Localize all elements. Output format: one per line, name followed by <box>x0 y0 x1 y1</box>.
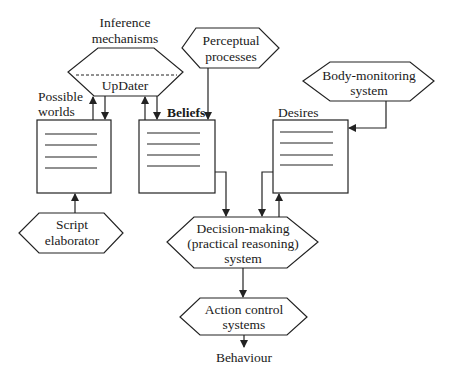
perceptual-processes-node: Perceptual processes <box>182 28 279 68</box>
beliefs-store: Beliefs <box>139 105 215 193</box>
script-elaborator-label-line2: elaborator <box>45 233 100 248</box>
action-control-label-line1: Action control <box>205 302 284 317</box>
action-control-label-line2: systems <box>223 317 266 332</box>
arrow-beliefs-to-decision <box>215 172 226 216</box>
inference-mechanisms-node: Inference mechanisms UpDater <box>68 15 183 96</box>
decision-making-node: Decision-making (practical reasoning) sy… <box>167 217 318 268</box>
inference-label-line1: Inference <box>100 15 151 30</box>
perceptual-label-line1: Perceptual <box>203 33 260 48</box>
desires-label: Desires <box>278 105 319 120</box>
arrow-body-to-desires <box>349 101 386 128</box>
decision-making-label-line3: system <box>224 251 262 266</box>
possible-worlds-label-line1: Possible <box>38 89 83 104</box>
possible-worlds-store: Possible worlds <box>37 89 111 193</box>
architecture-diagram: Inference mechanisms UpDater Perceptual … <box>0 0 453 376</box>
decision-making-label-line2: (practical reasoning) <box>187 236 298 251</box>
decision-making-label-line1: Decision-making <box>197 221 290 236</box>
inference-label-line2: mechanisms <box>92 31 159 46</box>
body-monitoring-label-line1: Body-monitoring <box>322 68 416 83</box>
script-elaborator-label-line1: Script <box>56 217 88 232</box>
behaviour-label: Behaviour <box>216 350 273 365</box>
desires-box <box>273 120 348 193</box>
body-monitoring-node: Body-monitoring system <box>303 62 434 101</box>
arrow-desires-to-decision <box>262 172 273 216</box>
beliefs-box <box>139 120 215 193</box>
body-monitoring-label-line2: system <box>350 83 388 98</box>
action-control-node: Action control systems <box>180 298 307 335</box>
beliefs-label: Beliefs <box>167 105 205 120</box>
script-elaborator-node: Script elaborator <box>19 213 123 253</box>
perceptual-label-line2: processes <box>205 49 257 64</box>
desires-store: Desires <box>273 105 348 193</box>
possible-worlds-label-line2: worlds <box>38 104 75 119</box>
updater-label: UpDater <box>102 78 149 93</box>
